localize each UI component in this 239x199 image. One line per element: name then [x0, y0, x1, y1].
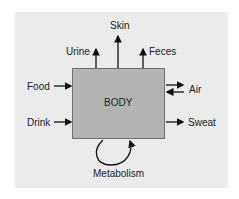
skin-label: Skin: [110, 20, 129, 32]
metabolism-label: Metabolism: [93, 168, 144, 180]
body-label: BODY: [104, 97, 132, 109]
urine-label: Urine: [66, 46, 90, 58]
air-label: Air: [189, 84, 201, 96]
feces-label: Feces: [149, 46, 176, 58]
sweat-label: Sweat: [188, 117, 216, 129]
food-label: Food: [27, 81, 50, 93]
drink-label: Drink: [27, 117, 50, 129]
metabolism-loop: [96, 140, 130, 165]
